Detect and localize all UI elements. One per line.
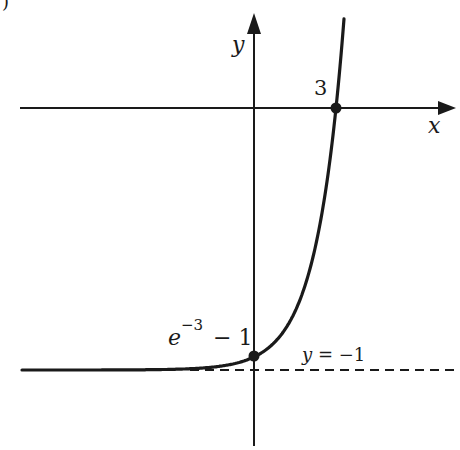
x-axis-arrow-icon	[438, 101, 456, 115]
svg-text:y = −1: y = −1	[301, 344, 365, 365]
asymptote-label-eq: = −1	[312, 344, 365, 365]
x-intercept-label: 3	[314, 76, 327, 100]
asymptote-label: y = −1	[301, 344, 365, 365]
label-exponent: −3	[181, 316, 203, 334]
y-intercept-point	[249, 351, 260, 362]
graph-canvas: ) x y 3 e −3 − 1 y = −1	[0, 0, 460, 450]
figure-label-fragment: )	[2, 0, 9, 12]
graph-figure: ) x y 3 e −3 − 1 y = −1	[0, 0, 460, 450]
y-axis-arrow-icon	[247, 13, 261, 34]
y-axis	[247, 13, 261, 446]
x-intercept-point	[331, 103, 342, 114]
label-base: e	[168, 325, 181, 350]
y-intercept-label: e −3 − 1	[168, 316, 252, 350]
x-axis	[20, 101, 456, 115]
label-rest: − 1	[206, 325, 252, 350]
y-axis-label: y	[231, 32, 245, 57]
x-axis-label: x	[428, 113, 441, 138]
